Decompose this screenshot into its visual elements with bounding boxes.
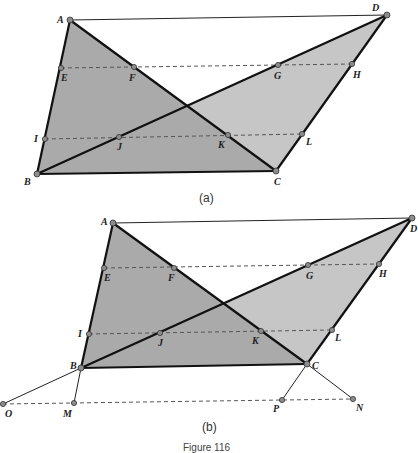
point-b xyxy=(78,365,84,371)
point-l xyxy=(299,131,304,136)
point-j xyxy=(116,134,121,139)
label-l: L xyxy=(305,136,312,147)
point-i xyxy=(86,331,91,336)
panel-b: A D B C E F G H I J K L O M P N (b) xyxy=(0,215,417,434)
label-e: E xyxy=(60,72,68,83)
point-p xyxy=(279,397,284,402)
point-o xyxy=(0,401,5,406)
figure-caption: Figure 116 xyxy=(183,442,231,453)
point-h xyxy=(376,261,381,266)
label-e: E xyxy=(103,272,111,283)
label-m: M xyxy=(62,408,73,419)
label-b: B xyxy=(23,176,31,187)
segment-ad xyxy=(113,218,412,223)
point-h xyxy=(349,61,354,66)
point-m xyxy=(71,400,76,405)
label-f: F xyxy=(128,72,136,83)
point-c xyxy=(273,168,279,174)
panel-a-caption: (a) xyxy=(199,191,214,205)
point-e xyxy=(58,65,63,70)
point-b xyxy=(34,171,40,177)
label-o: O xyxy=(5,408,12,419)
point-f xyxy=(171,265,176,270)
label-j: J xyxy=(157,337,164,348)
label-i: I xyxy=(33,133,39,144)
label-f: F xyxy=(167,272,175,283)
label-h: H xyxy=(352,69,362,80)
point-d xyxy=(384,12,390,18)
point-a xyxy=(110,220,116,226)
label-k: K xyxy=(251,335,260,346)
label-p: P xyxy=(273,403,280,414)
segment-ad xyxy=(70,15,387,20)
segment-cp xyxy=(282,364,307,400)
label-c: C xyxy=(312,360,319,371)
label-h: H xyxy=(378,268,388,279)
label-g: G xyxy=(306,270,314,281)
label-j: J xyxy=(116,141,123,152)
point-n xyxy=(350,396,355,401)
point-k xyxy=(225,132,230,137)
label-a: A xyxy=(56,14,64,25)
point-i xyxy=(42,136,47,141)
label-k: K xyxy=(217,139,226,150)
label-n: N xyxy=(355,402,364,413)
point-g xyxy=(305,262,310,267)
label-a: A xyxy=(100,216,108,227)
segment-bm xyxy=(74,368,81,403)
panel-b-caption: (b) xyxy=(202,420,217,434)
figure-116: A D B C E F G H I J K L (a) xyxy=(0,0,418,453)
label-l: L xyxy=(334,332,341,343)
dashed-line-om-pn xyxy=(3,399,353,404)
point-a xyxy=(67,17,73,23)
point-j xyxy=(157,330,162,335)
point-l xyxy=(329,327,334,332)
point-e xyxy=(101,265,106,270)
point-c xyxy=(304,361,310,367)
label-g: G xyxy=(274,70,282,81)
point-d xyxy=(409,215,415,221)
label-d: D xyxy=(371,2,379,13)
label-b: B xyxy=(69,360,77,371)
label-d: D xyxy=(409,223,417,234)
point-g xyxy=(275,62,280,67)
label-i: I xyxy=(77,328,83,339)
point-k xyxy=(258,328,263,333)
label-c: C xyxy=(274,176,281,187)
point-f xyxy=(131,64,136,69)
panel-a: A D B C E F G H I J K L (a) xyxy=(23,2,390,205)
segment-bo xyxy=(3,368,81,404)
